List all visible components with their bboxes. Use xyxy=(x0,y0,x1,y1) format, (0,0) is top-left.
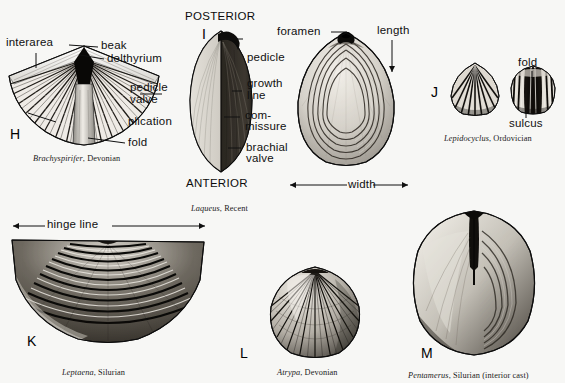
label-fold: fold xyxy=(128,137,147,149)
label-pedicle: pedicle xyxy=(247,52,285,64)
label-hinge-line: hinge line xyxy=(47,219,98,231)
specimen-letter-j: J xyxy=(431,84,438,100)
specimen-letter-i: I xyxy=(202,26,206,42)
caption-m: Pentamerus, Silurian (interior cast) xyxy=(408,371,529,380)
specimen-laqueus-dorsal xyxy=(290,28,402,170)
caption-k: Leptaena, Silurian xyxy=(62,368,125,377)
caption-l: Atrypa, Devonian xyxy=(277,368,338,377)
label-growth: growth xyxy=(247,78,283,90)
specimen-m-pentamerus xyxy=(404,207,544,359)
label-sulcus: sulcus xyxy=(509,118,543,130)
caption-h-genus: Brachyspirifer xyxy=(33,154,83,163)
caption-k-genus: Leptaena xyxy=(62,368,94,377)
caption-m-age: , Silurian (interior cast) xyxy=(449,371,529,380)
caption-i-genus: Laqueus xyxy=(191,204,220,213)
label-posterior: POSTERIOR xyxy=(185,10,255,22)
caption-m-genus: Pentamerus xyxy=(408,371,449,380)
caption-h-age: , Devonian xyxy=(83,154,120,163)
specimen-j-lepidocyclus-left xyxy=(447,60,503,118)
caption-i-age: , Recent xyxy=(220,204,248,213)
specimen-k-leptaena xyxy=(8,236,208,346)
label-pedicle-valve-line2: valve xyxy=(130,94,158,106)
specimen-letter-m: M xyxy=(421,345,433,361)
label-fold-j: fold xyxy=(518,57,537,69)
specimen-j-lepidocyclus-right xyxy=(507,62,559,118)
label-brachial-valve-line2: valve xyxy=(246,153,274,165)
label-width: width xyxy=(348,179,376,191)
specimen-letter-h: H xyxy=(10,126,20,142)
label-pedicle-valve: pedicle xyxy=(130,82,168,94)
caption-l-genus: Atrypa xyxy=(277,368,300,377)
label-anterior: ANTERIOR xyxy=(186,177,248,189)
label-beak: beak xyxy=(101,40,127,52)
caption-h: Brachyspirifer, Devonian xyxy=(33,154,120,163)
label-delthyrium: delthyrium xyxy=(107,53,162,65)
specimen-l-atrypa xyxy=(263,263,367,363)
specimen-letter-k: K xyxy=(27,333,36,349)
label-plication: plication xyxy=(128,116,172,128)
caption-j-genus: Lepidocyclus xyxy=(444,134,489,143)
caption-i: Laqueus, Recent xyxy=(191,204,248,213)
label-growth-line2: line xyxy=(247,90,266,102)
label-commissure-line2: missure xyxy=(245,121,287,133)
brachiopod-morphology-figure: interarea beak delthyrium pedicle valve … xyxy=(0,0,565,383)
label-foramen: foramen xyxy=(277,26,321,38)
caption-l-age: , Devonian xyxy=(300,368,337,377)
caption-k-age: , Silurian xyxy=(94,368,125,377)
label-interarea: interarea xyxy=(6,37,53,49)
label-length: length xyxy=(377,25,410,37)
caption-j-age: , Ordovician xyxy=(489,134,532,143)
caption-j: Lepidocyclus, Ordovician xyxy=(444,134,532,143)
specimen-letter-l: L xyxy=(240,345,248,361)
